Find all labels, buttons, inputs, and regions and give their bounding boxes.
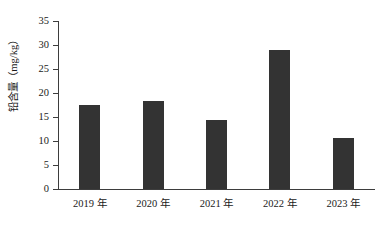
- y-tick-mark: [53, 93, 58, 94]
- y-tick-mark: [53, 141, 58, 142]
- y-tick-mark: [53, 117, 58, 118]
- x-axis-line: [58, 189, 375, 190]
- y-tick-mark: [53, 69, 58, 70]
- x-tick-label: 2019 年: [55, 197, 125, 210]
- x-tick-label: 2021 年: [182, 197, 252, 210]
- y-axis-title: 铅含量（mg/kg）: [9, 15, 20, 131]
- y-tick-label: 15: [39, 110, 50, 123]
- y-tick-mark: [53, 45, 58, 46]
- bar-2023年: [333, 138, 354, 189]
- bar-2020年: [143, 101, 164, 189]
- y-tick-label: 30: [39, 38, 50, 51]
- x-tick-label: 2023 年: [308, 197, 378, 210]
- y-tick-mark: [53, 165, 58, 166]
- y-tick-label: 35: [39, 14, 50, 27]
- bar-chart-figure: 铅含量（mg/kg） 05101520253035 2019 年2020 年20…: [0, 0, 390, 239]
- bar-2019年: [79, 105, 100, 189]
- y-tick-mark: [53, 21, 58, 22]
- x-tick-label: 2020 年: [118, 197, 188, 210]
- y-tick-mark: [53, 189, 58, 190]
- x-tick-label: 2022 年: [245, 197, 315, 210]
- y-tick-label: 5: [44, 158, 49, 171]
- plot-area: 05101520253035 2019 年2020 年2021 年2022 年2…: [58, 21, 375, 189]
- y-tick-label: 10: [39, 134, 50, 147]
- y-tick-label: 25: [39, 62, 50, 75]
- y-tick-label: 0: [44, 182, 49, 195]
- y-axis-line: [58, 21, 59, 189]
- y-tick-label: 20: [39, 86, 50, 99]
- bar-2022年: [269, 50, 290, 189]
- bar-2021年: [206, 120, 227, 189]
